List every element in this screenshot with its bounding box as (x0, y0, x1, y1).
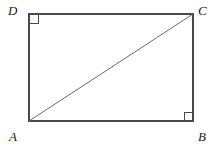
vertex-label-d: D (8, 4, 17, 17)
vertex-label-a: A (9, 130, 17, 143)
vertex-label-c: C (198, 4, 207, 17)
vertex-label-b: B (198, 130, 206, 143)
figure-canvas (0, 0, 213, 154)
geometry-figure: D C A B (0, 0, 213, 154)
